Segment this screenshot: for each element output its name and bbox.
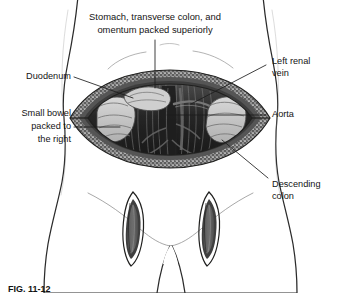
figure-root: Stomach, transverse colon, and omentum p…	[0, 0, 341, 293]
figure-number: FIG. 11-12	[8, 285, 51, 293]
figure-caption-strip: FIG. 11-12	[0, 285, 341, 293]
label-small-bowel-line2: packed to	[31, 121, 71, 131]
label-small-bowel-line3: the right	[38, 134, 72, 144]
label-descending-colon-line1: Descending	[272, 179, 321, 189]
label-stomach-transverse-colon-omentum-line1: Stomach, transverse colon, and	[89, 11, 221, 22]
label-stomach-transverse-colon-omentum-line2: omentum packed superiorly	[97, 24, 212, 35]
label-aorta: Aorta	[272, 109, 295, 119]
label-left-renal-vein-line2: vein	[272, 68, 289, 78]
label-duodenum: Duodenum	[26, 71, 71, 81]
label-descending-colon-line2: colon	[272, 191, 294, 201]
label-left-renal-vein-line1: Left renal	[272, 56, 310, 66]
label-small-bowel-line1: Small bowel	[21, 108, 71, 118]
figure-caption: FIG. 11-12	[0, 285, 341, 293]
medical-illustration: Stomach, transverse colon, and omentum p…	[0, 0, 341, 293]
